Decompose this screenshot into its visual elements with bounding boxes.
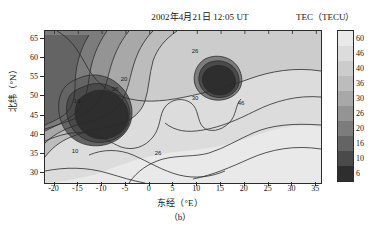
- y-tick-label: 65: [0, 33, 38, 42]
- y-tick-label: 35: [0, 149, 38, 158]
- x-tick-label: 15: [216, 184, 224, 193]
- x-tick-label: -20: [48, 184, 59, 193]
- x-tick-label: 30: [287, 184, 295, 193]
- y-tick-mark: [40, 38, 44, 39]
- colorbar-tick-label: 20: [356, 123, 364, 132]
- colorbar-band: [338, 31, 353, 46]
- page-title: 2002年4月21日 12:05 UT: [120, 10, 280, 23]
- colorbar-band: [338, 61, 353, 76]
- x-tick-label: -10: [96, 184, 107, 193]
- colorbar: [337, 30, 354, 182]
- colorbar-title: TEC（TECU）: [296, 10, 380, 23]
- colorbar-tick-label: 26: [356, 108, 364, 117]
- y-tick-mark: [40, 134, 44, 135]
- colorbar-tick-label: 60: [356, 33, 364, 42]
- contour-label: 30: [192, 95, 199, 101]
- colorbar-band: [338, 166, 353, 181]
- contour-label: 10: [72, 148, 79, 154]
- figure-subcaption: （b）: [104, 210, 256, 223]
- x-axis-title: 东经（°E）: [104, 196, 256, 209]
- y-axis-title: 北纬（°N）: [6, 53, 19, 125]
- colorbar-tick-label: 10: [356, 153, 364, 162]
- contour-label: 16: [74, 98, 81, 104]
- colorbar-band: [338, 151, 353, 166]
- contour-label: 36: [112, 86, 119, 92]
- x-tick-label: -5: [122, 184, 129, 193]
- y-tick-mark: [40, 115, 44, 116]
- colorbar-tick-label: 36: [356, 78, 364, 87]
- contour-plot-area: 26 36 30 46 20 16 10 26: [44, 30, 322, 184]
- y-tick-label: 30: [0, 168, 38, 177]
- contour-label: 46: [238, 100, 245, 106]
- colorbar-tick-label: 16: [356, 138, 364, 147]
- colorbar-band: [338, 76, 353, 91]
- x-tick-label: 5: [170, 184, 174, 193]
- contour-label: 20: [121, 76, 128, 82]
- colorbar-tick-label: 46: [356, 48, 364, 57]
- contour-map: [45, 31, 321, 183]
- x-tick-label: 35: [311, 184, 319, 193]
- x-tick-label: 20: [240, 184, 248, 193]
- colorbar-band: [338, 121, 353, 136]
- x-tick-label: 25: [264, 184, 272, 193]
- y-tick-mark: [40, 153, 44, 154]
- x-tick-label: 0: [147, 184, 151, 193]
- x-tick-label: 10: [192, 184, 200, 193]
- y-tick-mark: [40, 95, 44, 96]
- colorbar-band: [338, 136, 353, 151]
- colorbar-tick-label: 40: [356, 63, 364, 72]
- colorbar-band: [338, 46, 353, 61]
- colorbar-band: [338, 91, 353, 106]
- colorbar-tick-label: 30: [356, 93, 364, 102]
- y-tick-mark: [40, 57, 44, 58]
- colorbar-tick-label: 6: [356, 168, 360, 177]
- y-tick-label: 40: [0, 129, 38, 138]
- colorbar-band: [338, 106, 353, 121]
- tec-contour-figure: 2002年4月21日 12:05 UT TEC（TECU）: [0, 0, 381, 233]
- contour-label: 26: [155, 150, 162, 156]
- y-tick-mark: [40, 76, 44, 77]
- x-tick-label: -15: [72, 184, 83, 193]
- contour-label: 26: [192, 48, 199, 54]
- y-tick-mark: [40, 172, 44, 173]
